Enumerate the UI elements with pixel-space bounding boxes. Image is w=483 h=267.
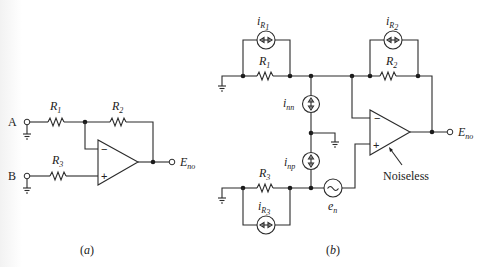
ir3-label: iR3 bbox=[258, 199, 270, 217]
figure-b: R1 iR1 R2 iR2 bbox=[218, 14, 473, 257]
junction-node bbox=[151, 160, 156, 165]
resistor-r2-icon bbox=[380, 72, 396, 80]
wire bbox=[370, 40, 384, 76]
terminal-b-label: B bbox=[8, 169, 16, 183]
feedback-wire bbox=[126, 122, 153, 162]
inn-label: inn bbox=[283, 96, 294, 112]
current-source-ir3-icon bbox=[257, 216, 275, 234]
terminal-a bbox=[24, 119, 30, 125]
r3-label: R3 bbox=[51, 153, 63, 169]
wire bbox=[243, 188, 257, 225]
wire bbox=[402, 40, 418, 76]
ir2-label: iR2 bbox=[386, 14, 398, 32]
resistor-r1-icon bbox=[48, 118, 64, 126]
opamp-plus-sign: + bbox=[373, 139, 379, 151]
r2-label: R2 bbox=[111, 99, 123, 115]
caption-a: (a) bbox=[80, 243, 94, 257]
wire bbox=[275, 188, 290, 225]
resistor-r3-icon bbox=[257, 184, 273, 192]
inverting-input-wire bbox=[85, 122, 98, 149]
inp-label: inp bbox=[284, 155, 295, 171]
terminal-a-label: A bbox=[8, 115, 17, 129]
junction-node bbox=[309, 186, 314, 191]
noiseless-label: Noiseless bbox=[383, 169, 429, 183]
opamp-minus-sign: − bbox=[101, 143, 107, 155]
wire bbox=[243, 40, 257, 76]
ground-icon bbox=[23, 188, 31, 193]
current-source-ir1-icon bbox=[257, 31, 275, 49]
r1-label: R1 bbox=[49, 99, 61, 115]
resistor-r1-icon bbox=[257, 72, 273, 80]
figure-a: A R1 R2 − + Eno B R3 bbox=[8, 99, 195, 257]
r1-label: R1 bbox=[258, 54, 270, 70]
ground-icon bbox=[218, 86, 226, 91]
output-terminal bbox=[447, 129, 453, 135]
wire bbox=[275, 40, 290, 76]
ground-icon bbox=[331, 142, 339, 147]
ir1-label: iR1 bbox=[257, 14, 269, 32]
feedback-wire bbox=[396, 76, 432, 132]
current-source-ir2-icon bbox=[384, 31, 402, 49]
current-source-inn-icon bbox=[303, 96, 320, 113]
caption-b: (b) bbox=[326, 243, 340, 257]
sine-wave-icon bbox=[328, 187, 339, 191]
ground-icon bbox=[218, 198, 226, 203]
noninverting-input-wire bbox=[342, 144, 370, 188]
wire bbox=[222, 76, 243, 86]
output-label: Eno bbox=[457, 125, 473, 141]
wire bbox=[222, 188, 243, 198]
r2-label: R2 bbox=[385, 54, 397, 70]
junction-node bbox=[430, 130, 435, 135]
resistor-r2-icon bbox=[110, 118, 126, 126]
opamp-plus-sign: + bbox=[101, 170, 107, 182]
ground-icon bbox=[23, 134, 31, 139]
wire bbox=[311, 133, 335, 142]
output-label: Eno bbox=[179, 155, 195, 171]
resistor-r3-icon bbox=[50, 172, 66, 180]
annotation-arrow-line bbox=[391, 150, 402, 165]
terminal-b bbox=[24, 173, 30, 179]
output-terminal bbox=[169, 159, 175, 165]
opamp-minus-sign: − bbox=[374, 112, 380, 124]
r3-label: R3 bbox=[258, 166, 270, 182]
current-source-inp-icon bbox=[303, 153, 320, 170]
inverting-input-wire bbox=[352, 76, 370, 118]
circuit-diagrams: A R1 R2 − + Eno B R3 bbox=[0, 0, 483, 267]
en-label: en bbox=[328, 199, 337, 215]
